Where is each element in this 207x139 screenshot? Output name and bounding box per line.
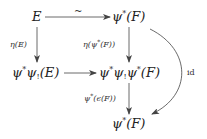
label-id-text: id bbox=[187, 68, 195, 77]
label-eta-E-text: η(E) bbox=[10, 40, 27, 49]
psi-glyph: ψ bbox=[12, 65, 22, 80]
node-psi-star-psi-shriek-psi-star-F: ψ*ψ!ψ*(F) bbox=[99, 66, 160, 80]
label-psi-star-epsilon-F: ψ*(ϵ(F)) bbox=[84, 94, 116, 103]
label-part: η(ψ bbox=[83, 40, 97, 49]
label-iso-text: ~ bbox=[74, 5, 82, 16]
label-part: (ϵ(F)) bbox=[93, 94, 116, 103]
label-iso: ~ bbox=[74, 6, 82, 15]
node-E: E bbox=[32, 10, 42, 24]
label-part: (F)) bbox=[100, 40, 115, 49]
arg-text: (E) bbox=[40, 65, 60, 80]
label-id: id bbox=[187, 68, 195, 77]
node-psi-star-psi-shriek-E: ψ*ψ!(E) bbox=[12, 66, 59, 80]
node-psi-star-F-top: ψ*(F) bbox=[112, 10, 145, 24]
node-psi-star-F-bottom: ψ*(F) bbox=[112, 117, 145, 131]
arg-text: (F) bbox=[141, 65, 160, 80]
psi-glyph: ψ bbox=[112, 116, 122, 131]
psi-glyph: ψ bbox=[99, 65, 109, 80]
psi-glyph: ψ bbox=[26, 65, 36, 80]
arg-text: (F) bbox=[126, 9, 145, 24]
psi-glyph: ψ bbox=[127, 65, 137, 80]
label-eta-E: η(E) bbox=[10, 40, 27, 49]
node-E-text: E bbox=[32, 9, 42, 24]
label-eta-psi-star-F: η(ψ*(F)) bbox=[83, 40, 115, 49]
psi-glyph: ψ bbox=[113, 65, 123, 80]
psi-glyph: ψ bbox=[112, 9, 122, 24]
arg-text: (F) bbox=[126, 116, 145, 131]
